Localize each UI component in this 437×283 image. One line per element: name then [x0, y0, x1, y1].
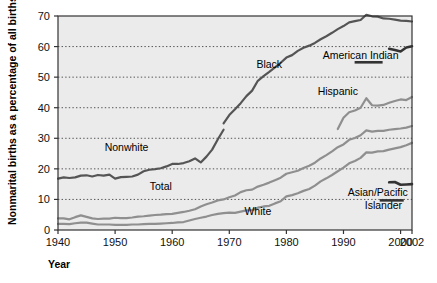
annotation-asian-pacific: Asian/Pacific [348, 186, 408, 198]
x-tick-label-2002: 2002 [400, 236, 424, 248]
x-axis-ticks: 19401950196019701980199020002002 [46, 230, 424, 248]
y-tick-label-0: 0 [44, 224, 50, 236]
y-tick-label-50: 50 [38, 71, 50, 83]
x-axis-title: Year [48, 258, 70, 270]
x-tick-label-1980: 1980 [274, 236, 298, 248]
x-tick-label-1940: 1940 [46, 236, 70, 248]
y-axis-ticks: 010203040506070 [38, 10, 58, 236]
annotation-american-indian: American Indian [323, 49, 399, 61]
annotation-total: Total [150, 180, 172, 192]
annotation-black: Black [256, 58, 282, 70]
annotation-nonwhite: Nonwhite [105, 141, 149, 153]
annotation-hispanic: Hispanic [318, 85, 358, 97]
y-axis-title: Nonmarital births as a percentage of all… [6, 0, 18, 225]
line-chart: 19401950196019701980199020002002 0102030… [0, 0, 437, 283]
y-tick-label-30: 30 [38, 132, 50, 144]
y-tick-label-20: 20 [38, 163, 50, 175]
y-tick-label-60: 60 [38, 41, 50, 53]
annotation-white: White [244, 205, 271, 217]
y-tick-label-70: 70 [38, 10, 50, 22]
y-tick-label-40: 40 [38, 102, 50, 114]
x-tick-label-1960: 1960 [160, 236, 184, 248]
x-tick-label-1950: 1950 [103, 236, 127, 248]
x-tick-label-1970: 1970 [217, 236, 241, 248]
y-tick-label-10: 10 [38, 193, 50, 205]
x-tick-label-1990: 1990 [331, 236, 355, 248]
chart-figure: 19401950196019701980199020002002 0102030… [0, 0, 437, 283]
